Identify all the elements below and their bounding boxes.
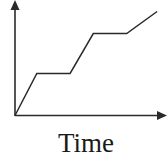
x-axis-label: Time xyxy=(0,128,167,158)
y-axis xyxy=(11,0,20,116)
x-axis-arrow-icon xyxy=(157,111,167,120)
data-series-line xyxy=(15,12,157,116)
y-axis-arrow-icon xyxy=(11,0,20,10)
x-axis xyxy=(15,111,167,120)
